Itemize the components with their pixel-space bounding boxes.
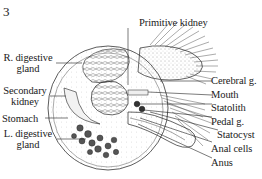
- central-organ: [91, 81, 128, 115]
- label-statocyst: Statocyst: [217, 129, 255, 140]
- mouth-tube: [128, 90, 148, 95]
- label-l-digestive-gland: L. digestive gland: [0, 128, 56, 150]
- label-statolith: Statolith: [211, 102, 246, 113]
- label-secondary-kidney-line2: kidney: [0, 96, 50, 107]
- label-pedal-g: Pedal g.: [211, 116, 244, 127]
- statocyst-2: [139, 106, 145, 112]
- label-r-digestive-gland-line2: gland: [0, 63, 56, 74]
- label-mouth: Mouth: [211, 89, 239, 100]
- anatomy-figure: 3 Primitive kidney R. digestive gland Se…: [0, 0, 262, 179]
- label-anus: Anus: [211, 157, 233, 168]
- label-r-digestive-gland-line1: R. digestive: [0, 52, 56, 63]
- label-stomach: Stomach: [2, 113, 38, 124]
- label-primitive-kidney: Primitive kidney: [139, 17, 208, 28]
- label-secondary-kidney: Secondary kidney: [0, 85, 50, 107]
- label-l-digestive-gland-line2: gland: [0, 139, 56, 150]
- label-r-digestive-gland: R. digestive gland: [0, 52, 56, 74]
- label-l-digestive-gland-line1: L. digestive: [0, 128, 56, 139]
- label-secondary-kidney-line1: Secondary: [0, 85, 50, 96]
- figure-number: 3: [3, 5, 10, 18]
- label-cerebral-g: Cerebral g.: [211, 75, 257, 86]
- label-anal-cells: Anal cells: [211, 143, 252, 154]
- statocyst-1: [134, 101, 140, 107]
